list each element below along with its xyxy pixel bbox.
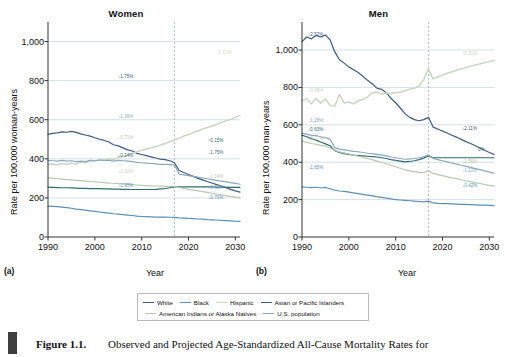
legend-item: Black [180, 299, 209, 306]
y-tick-label: 0 [258, 232, 298, 242]
panel-letter-a: (a) [4, 266, 14, 276]
rate-change-annotation: ↑0.99% [308, 88, 323, 93]
legend-item: White [143, 299, 173, 306]
legend-line-swatch [261, 302, 272, 303]
plot-area-men: 02004006008001,00019902000201020202030↓2… [302, 22, 494, 237]
rate-change-annotation: ↑0.15% [208, 138, 223, 143]
rate-change-annotation: ↓0.42% [462, 183, 477, 188]
legend-item: U.S. population [263, 310, 319, 317]
x-tick-label: 2010 [376, 242, 416, 252]
legend-label: White [157, 299, 173, 306]
legend-item: American Indians or Alaska Natives [145, 310, 256, 317]
y-tick-label: 600 [258, 120, 298, 130]
y-tick-label: 800 [258, 82, 298, 92]
rate-change-annotation: ↓2.52% [308, 32, 323, 37]
legend-label: Hispanic [230, 299, 254, 306]
legend-label: American Indians or Alaska Natives [159, 310, 256, 317]
rate-change-annotation: ↑0.31% [462, 51, 477, 56]
y-tick-label: 600 [4, 115, 44, 125]
panel-letter-b: (b) [256, 266, 267, 276]
y-tick-label: 800 [4, 76, 44, 86]
legend-line-swatch [143, 302, 154, 303]
rate-change-annotation: ↓0.63% [308, 127, 323, 132]
chart-legend: WhiteBlackHispanicAsian or Pacific Islan… [137, 293, 369, 321]
rate-change-annotation: ↓1.56% [462, 159, 477, 164]
legend-line-swatch [263, 313, 274, 314]
y-tick-label: 400 [4, 154, 44, 164]
rate-change-annotation: ↓1.75% [208, 150, 223, 155]
series-line [48, 206, 240, 221]
figure-container: Women Rate per 100,000 woman-years 02004… [0, 0, 505, 357]
panel-title-men: Men [252, 8, 505, 19]
caption-accent-bar [8, 332, 17, 354]
figure-caption-text: Observed and Projected Age-Standardized … [108, 338, 428, 350]
chart-svg [48, 22, 240, 237]
x-tick-label: 2020 [422, 242, 462, 252]
panel-title-women: Women [0, 8, 252, 19]
legend-label: Asian or Pacific Islanders [275, 299, 344, 306]
rate-change-annotation: ↓0.71% [118, 135, 133, 140]
x-tick-label: 2020 [168, 242, 208, 252]
legend-line-swatch [216, 302, 227, 303]
rate-change-annotation: ↓1.14% [208, 174, 223, 179]
series-line [302, 187, 494, 206]
y-tick-label: 1,000 [4, 37, 44, 47]
x-axis-label-women: Year [95, 268, 215, 278]
legend-label: Black [194, 299, 209, 306]
legend-item: Hispanic [216, 299, 254, 306]
rate-change-annotation: ↓1.30% [118, 169, 133, 174]
legend-row-1: WhiteBlackHispanicAsian or Pacific Islan… [143, 297, 363, 308]
rate-change-annotation: ↓1.75% [118, 74, 133, 79]
x-tick-label: 2030 [469, 242, 505, 252]
figure-caption: Figure 1.1. Observed and Projected Age-S… [0, 330, 505, 357]
x-axis-label-men: Year [347, 268, 467, 278]
legend-item: Asian or Pacific Islanders [261, 299, 344, 306]
panel-men: Men Rate per 100,000 man-years 020040060… [252, 0, 505, 288]
rate-change-annotation: ↓1.95% [118, 183, 133, 188]
y-tick-label: 200 [4, 193, 44, 203]
rate-change-annotation: 0% [478, 147, 485, 152]
legend-line-swatch [180, 302, 191, 303]
x-tick-label: 2000 [75, 242, 115, 252]
x-tick-label: 1990 [28, 242, 68, 252]
legend-label: U.S. population [277, 310, 319, 317]
figure-number: Figure 1.1. [36, 338, 86, 350]
x-tick-label: 2030 [215, 242, 255, 252]
rate-change-annotation: ↓0.14% [118, 153, 133, 158]
panel-women: Women Rate per 100,000 woman-years 02004… [0, 0, 252, 288]
rate-change-annotation: ↑1.71% [216, 50, 231, 55]
rate-change-annotation: ↓1.22% [462, 168, 477, 173]
rate-change-annotation: ↓2.11% [462, 126, 477, 131]
rate-change-annotation: ↓1.65% [308, 165, 323, 170]
y-tick-label: 1,000 [258, 45, 298, 55]
legend-line-swatch [145, 313, 156, 314]
x-tick-label: 2000 [329, 242, 369, 252]
rate-change-annotation: ↓1.39% [118, 114, 133, 119]
legend-row-2: American Indians or Alaska NativesU.S. p… [143, 308, 363, 319]
plot-area-women: 02004006008001,00019902000201020202030↓1… [48, 22, 240, 237]
y-tick-label: 400 [258, 157, 298, 167]
rate-change-annotation: ↓0.62% [208, 185, 223, 190]
x-tick-label: 2010 [122, 242, 162, 252]
rate-change-annotation: ↓1.28% [308, 118, 323, 123]
y-tick-label: 200 [258, 195, 298, 205]
x-tick-label: 1990 [282, 242, 322, 252]
rate-change-annotation: ↓0.70% [208, 195, 223, 200]
rate-change-annotation: ↓3.17% [308, 136, 323, 141]
series-line [302, 61, 494, 107]
y-tick-label: 0 [4, 232, 44, 242]
